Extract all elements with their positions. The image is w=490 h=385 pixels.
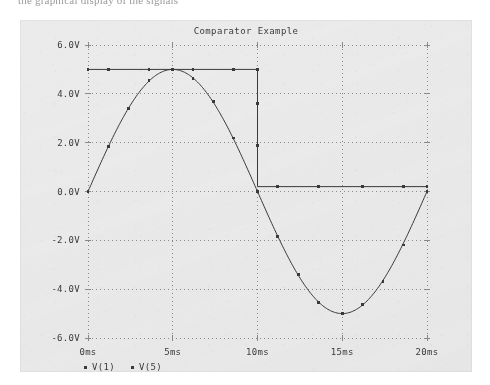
y-axis-tick-label: -6.0V (51, 333, 80, 343)
legend-label: V(1) (92, 362, 115, 372)
plot-area: -6.0V-4.0V-2.0V0.0V2.0V4.0V6.0V0ms5ms10m… (20, 20, 472, 372)
x-axis-tick-label: 10ms (246, 347, 269, 357)
y-axis-tick-label: 6.0V (57, 40, 80, 50)
legend-label: V(5) (139, 362, 162, 372)
y-axis-tick-label: 0.0V (57, 187, 80, 197)
x-axis-tick-label: 20ms (416, 347, 439, 357)
x-axis-tick-label: 0ms (79, 347, 96, 357)
x-axis-tick-label: 15ms (331, 347, 354, 357)
chart-legend: V(1)V(5) (84, 362, 162, 372)
y-axis-tick-label: 2.0V (57, 138, 80, 148)
y-axis-tick-label: 4.0V (57, 89, 80, 99)
x-axis-tick-label: 5ms (164, 347, 181, 357)
page-body-text-fragment: the graphical display of the signals (18, 0, 318, 6)
figure-panel: Comparator Example -6.0V-4.0V-2.0V0.0V2.… (20, 20, 472, 372)
axis-labels-layer: -6.0V-4.0V-2.0V0.0V2.0V4.0V6.0V0ms5ms10m… (51, 40, 438, 372)
y-axis-tick-label: -4.0V (51, 284, 80, 294)
y-axis-tick-label: -2.0V (51, 235, 80, 245)
legend-square-marker (131, 366, 134, 369)
legend-square-marker (84, 366, 87, 369)
